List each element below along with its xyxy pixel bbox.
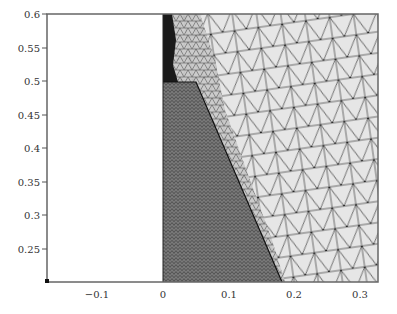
empty-region (48, 15, 163, 281)
x-tick-label: 0.3 (352, 289, 368, 300)
x-tick-label: 0 (160, 289, 166, 300)
y-tick-label: 0.5 (24, 76, 40, 87)
y-tick-label: 0.3 (24, 210, 40, 221)
y-tick-label: 0.25 (18, 244, 40, 255)
x-tick-label: 0.2 (286, 289, 302, 300)
x-axis: −0.1 0 0.1 0.2 0.3 (85, 289, 368, 300)
y-tick-label: 0.4 (24, 143, 40, 154)
mesh-plot: 0.6 0.55 0.5 0.45 0.4 0.35 0.3 0.25 −0.1… (0, 0, 397, 314)
y-axis: 0.6 0.55 0.5 0.45 0.4 0.35 0.3 0.25 (18, 9, 47, 255)
y-tick-label: 0.45 (18, 110, 40, 121)
x-tick-label: 0.1 (221, 289, 237, 300)
x-tick-label: −0.1 (85, 289, 109, 300)
y-tick-label: 0.6 (24, 9, 40, 20)
y-tick-label: 0.35 (18, 177, 40, 188)
y-tick-label: 0.55 (18, 43, 40, 54)
